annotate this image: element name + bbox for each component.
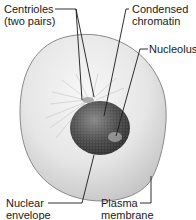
label-plasma-membrane-line2: membrane xyxy=(101,209,154,220)
label-plasma-membrane: Plasma membrane xyxy=(101,197,154,220)
centrioles xyxy=(82,97,94,103)
label-centrioles-line2: (two pairs) xyxy=(4,15,55,27)
label-nuclear-envelope-line2: envelope xyxy=(6,209,51,220)
label-centrioles-line1: Centrioles xyxy=(4,3,55,15)
label-condensed-chromatin-line2: chromatin xyxy=(132,15,188,27)
nucleolus xyxy=(108,132,122,142)
label-nucleolus-line1: Nucleolus xyxy=(149,43,196,55)
cell-diagram xyxy=(0,0,196,220)
label-plasma-membrane-line1: Plasma xyxy=(101,197,154,209)
label-condensed-chromatin: Condensed chromatin xyxy=(132,3,188,27)
label-condensed-chromatin-line1: Condensed xyxy=(132,3,188,15)
label-nucleolus: Nucleolus xyxy=(149,43,196,55)
chromatin-texture xyxy=(70,101,130,155)
label-nuclear-envelope-line1: Nuclear xyxy=(6,197,51,209)
label-centrioles: Centrioles (two pairs) xyxy=(4,3,55,27)
label-nuclear-envelope: Nuclear envelope xyxy=(6,197,51,220)
